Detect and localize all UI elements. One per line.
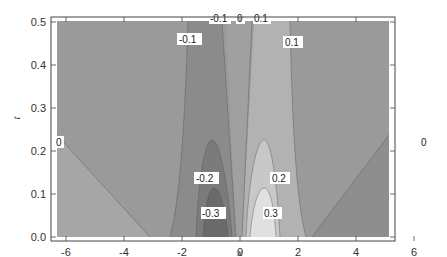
x-tick-label: 2 [295, 246, 301, 257]
contour-label: 0.1 [254, 13, 268, 24]
x-tick-label: 4 [353, 246, 359, 257]
contour-label: 0 [56, 137, 62, 148]
contour-label: -0.2 [196, 173, 214, 184]
y-axis-title: t [10, 116, 22, 120]
x-tick-label: -4 [119, 246, 129, 257]
y-tick-label: 0.4 [31, 59, 46, 71]
x-tick-label: -6 [61, 246, 71, 257]
y-tick-label: 0.0 [31, 231, 46, 243]
y-tick-label: 0.1 [31, 188, 46, 200]
x-axis-title: x [237, 246, 243, 257]
y-tick-label: 0.5 [31, 16, 46, 28]
y-tick-labels: 0.0 0.1 0.2 0.3 0.4 0.5 [31, 16, 46, 243]
x-tick-label: -2 [177, 246, 187, 257]
contour-label: -0.3 [202, 208, 220, 219]
contour-label: -0.1 [210, 13, 228, 24]
contour-label: 0.2 [272, 173, 286, 184]
contour-label: -0.1 [179, 34, 197, 45]
contour-label: 0 [421, 137, 427, 148]
contour-plot: -0.1 0 0.1 -0.1 0.1 0 0 -0.2 0.2 -0.3 0.… [0, 0, 447, 257]
x-tick-label: 6 [411, 246, 417, 257]
contour-label: 0.1 [285, 37, 299, 48]
contour-label: 0.3 [264, 208, 278, 219]
plot-area [57, 21, 389, 237]
y-tick-label: 0.2 [31, 145, 46, 157]
y-tick-label: 0.3 [31, 102, 46, 114]
